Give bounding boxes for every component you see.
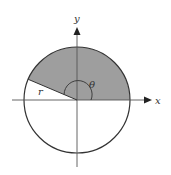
radius-label: r (38, 86, 44, 97)
angle-label: θ (89, 79, 95, 90)
y-axis-arrow-icon (74, 27, 81, 35)
y-axis-label: y (73, 13, 80, 24)
x-axis-arrow-icon (144, 97, 152, 104)
shaded-sector (28, 47, 130, 100)
x-axis-label: x (155, 95, 161, 106)
polar-sector-diagram: y x r θ (0, 0, 171, 175)
